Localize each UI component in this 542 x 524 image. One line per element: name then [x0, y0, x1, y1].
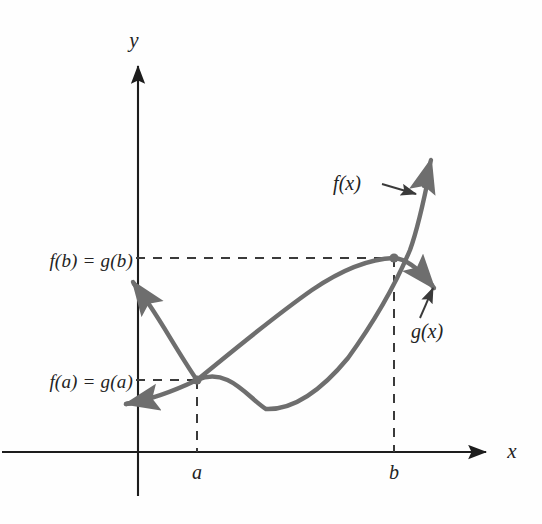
intersection-point-a — [192, 375, 201, 384]
curve-label-f: f(x) — [333, 173, 361, 193]
dashed-guides-group — [136, 258, 394, 452]
curve-f-arrow-left — [126, 399, 150, 404]
tick-label-a: a — [192, 462, 202, 482]
value-label-b: f(b) = g(b) — [49, 251, 133, 270]
leader-line-fx — [382, 184, 416, 194]
tick-label-b: b — [389, 462, 399, 482]
curve-g-arrow-left — [133, 282, 146, 300]
x-axis-label: x — [507, 441, 516, 462]
curve-label-g: g(x) — [411, 321, 443, 341]
intersection-point-b — [389, 253, 398, 262]
axes-group — [2, 66, 486, 496]
curve-g — [134, 258, 432, 380]
leader-line-gx — [420, 288, 433, 318]
curve-g-arrow-right — [419, 270, 434, 288]
value-label-a: f(a) = g(a) — [49, 372, 133, 391]
curve-f — [126, 170, 430, 409]
y-axis-label: y — [129, 30, 138, 51]
figure-container: y x a b f(x) g(x) f(b) = g(b) f(a) = g(a… — [0, 0, 542, 524]
